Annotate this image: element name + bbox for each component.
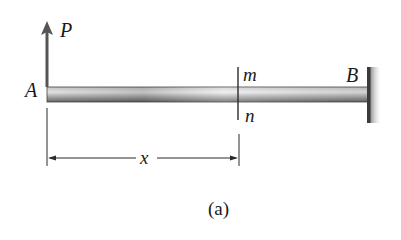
beam (47, 87, 368, 102)
figure-caption: (a) (208, 199, 229, 218)
end-a-label: A (25, 80, 37, 100)
distance-x-label: x (140, 148, 148, 167)
end-b-label: B (346, 65, 358, 85)
load-label: P (60, 20, 72, 40)
section-m-label: m (243, 65, 257, 84)
fixed-wall-support (367, 67, 381, 123)
section-n-label: n (245, 106, 255, 125)
load-arrow-icon (41, 21, 53, 87)
